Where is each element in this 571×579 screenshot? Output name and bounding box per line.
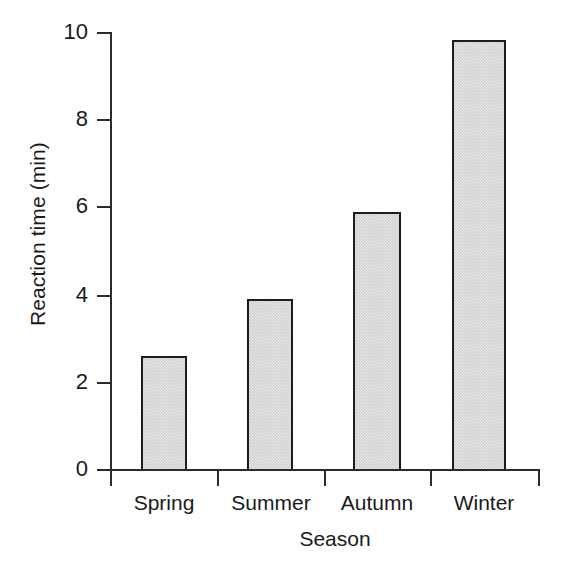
y-tick-mark-2: [97, 382, 111, 384]
y-tick-mark-4: [97, 295, 111, 297]
bar-winter: [452, 40, 506, 471]
y-tick-label-0: 0: [38, 458, 88, 480]
bar-autumn: [353, 212, 401, 471]
y-tick-mark-10: [97, 32, 111, 34]
x-tick-mark-4: [538, 471, 540, 486]
y-tick-label-4: 4: [38, 284, 88, 306]
y-axis-title: Reaction time (min): [26, 104, 50, 364]
y-tick-label-10: 10: [38, 21, 88, 43]
y-tick-label-8: 8: [38, 108, 88, 130]
y-tick-mark-6: [97, 206, 111, 208]
x-tick-mark-1: [217, 471, 219, 486]
bar-spring: [141, 356, 187, 471]
x-axis-line: [100, 469, 540, 471]
y-tick-mark-8: [97, 119, 111, 121]
bar-chart-figure: Reaction time (min) 10 8 6 4 2 0 Spring …: [0, 0, 571, 579]
x-tick-mark-3: [430, 471, 432, 486]
bar-summer: [247, 299, 293, 471]
x-axis-title: Season: [265, 527, 405, 551]
y-axis-line: [110, 32, 112, 470]
x-tick-label-winter: Winter: [414, 491, 554, 515]
x-tick-mark-0: [110, 471, 112, 486]
y-tick-label-6: 6: [38, 195, 88, 217]
x-tick-mark-2: [324, 471, 326, 486]
y-tick-label-2: 2: [38, 371, 88, 393]
